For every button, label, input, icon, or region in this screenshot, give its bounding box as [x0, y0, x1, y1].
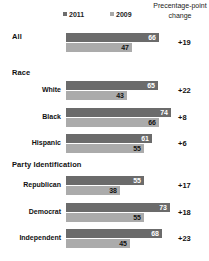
- chart-row-independent: Independent 68 45 +23: [0, 228, 209, 250]
- row-label-black: Black: [0, 113, 61, 120]
- bar-value-2009-black: 66: [148, 118, 156, 127]
- bar-2011-hispanic: 61: [66, 134, 152, 143]
- bar-value-2011-democrat: 73: [159, 203, 167, 212]
- change-value-independent: +23: [178, 234, 208, 243]
- bar-value-2011-independent: 68: [151, 229, 159, 238]
- row-label-white: White: [0, 86, 61, 93]
- bar-2009-hispanic: 55: [66, 144, 144, 153]
- change-column-header: Precentage-point change: [151, 1, 209, 20]
- bar-2009-all: 47: [66, 43, 132, 52]
- row-bars-hispanic: 61 55: [66, 133, 178, 155]
- change-value-white: +22: [178, 86, 208, 95]
- bar-2011-republican: 55: [66, 176, 144, 185]
- bar-2011-black: 74: [66, 108, 171, 117]
- bar-2009-democrat: 55: [66, 213, 144, 222]
- row-bars-republican: 55 38: [66, 175, 178, 197]
- square-marker-icon: [110, 12, 114, 16]
- row-bars-black: 74 66: [66, 107, 178, 129]
- bar-value-2011-all: 66: [148, 33, 156, 42]
- bar-value-2009-all: 47: [121, 43, 129, 52]
- bar-2011-independent: 68: [66, 229, 162, 238]
- chart-row-hispanic: Hispanic 61 55 +6: [0, 133, 209, 155]
- chart-row-republican: Republican 55 38 +17: [0, 175, 209, 197]
- row-bars-democrat: 73 55: [66, 202, 178, 224]
- legend-item-2011: 2011: [63, 10, 84, 19]
- bar-2011-democrat: 73: [66, 203, 170, 212]
- bar-2009-black: 66: [66, 118, 159, 127]
- bar-value-2009-hispanic: 55: [133, 144, 141, 153]
- bar-2009-republican: 38: [66, 186, 120, 195]
- chart-row-white: White 65 43 +22: [0, 80, 209, 102]
- bar-2011-all: 66: [66, 33, 159, 42]
- bar-value-2009-independent: 45: [119, 239, 127, 248]
- row-label-republican: Republican: [0, 181, 61, 188]
- bar-2011-white: 65: [66, 81, 158, 90]
- chart-row-democrat: Democrat 73 55 +18: [0, 202, 209, 224]
- row-bars-independent: 68 45: [66, 228, 178, 250]
- legend-label-2011: 2011: [69, 10, 84, 19]
- bar-value-2009-democrat: 55: [133, 213, 141, 222]
- group-heading-party-identification: Party Identification: [12, 160, 82, 169]
- bar-chart: 2011 2009 Precentage-point change All 66…: [0, 0, 209, 261]
- bar-value-2011-hispanic: 61: [141, 134, 149, 143]
- change-value-democrat: +18: [178, 208, 208, 217]
- bar-value-2011-white: 65: [147, 81, 155, 90]
- bar-value-2009-republican: 38: [109, 186, 117, 195]
- change-value-all: +19: [178, 38, 208, 47]
- legend-label-2009: 2009: [116, 10, 132, 19]
- bar-2009-independent: 45: [66, 239, 130, 248]
- group-heading-race: Race: [12, 68, 30, 77]
- row-label-hispanic: Hispanic: [0, 139, 61, 146]
- row-label-independent: Independent: [0, 234, 61, 241]
- bar-value-2009-white: 43: [116, 91, 124, 100]
- bar-value-2011-black: 74: [160, 108, 168, 117]
- change-value-hispanic: +6: [178, 139, 208, 148]
- row-bars-all: 66 47: [66, 32, 178, 54]
- bar-2009-white: 43: [66, 91, 127, 100]
- change-value-republican: +17: [178, 181, 208, 190]
- bar-value-2011-republican: 55: [133, 176, 141, 185]
- chart-row-black: Black 74 66 +8: [0, 107, 209, 129]
- row-label-democrat: Democrat: [0, 208, 61, 215]
- square-marker-icon: [63, 12, 67, 16]
- row-bars-white: 65 43: [66, 80, 178, 102]
- change-value-black: +8: [178, 113, 208, 122]
- chart-row-all: 66 47 +19: [0, 32, 209, 54]
- legend-item-2009: 2009: [110, 10, 132, 19]
